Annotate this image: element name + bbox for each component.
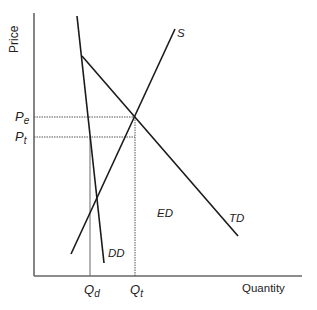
qd-label: Qd [84,282,100,299]
x-axis-label: Quantity [242,282,285,294]
y-axis-label: Price [7,25,21,53]
supply-curve [71,29,175,254]
export-demand-label: ED [157,207,173,219]
pe-label: Pe [15,109,30,126]
supply-label: S [177,27,185,39]
qt-label: Qt [130,282,144,299]
total-demand-label: TD [229,212,244,224]
pt-label: Pt [15,129,28,146]
domestic-demand-label: DD [108,247,125,259]
supply-demand-diagram: Price Quantity Pe Pt Qd Qt S TD DD ED [0,0,317,310]
